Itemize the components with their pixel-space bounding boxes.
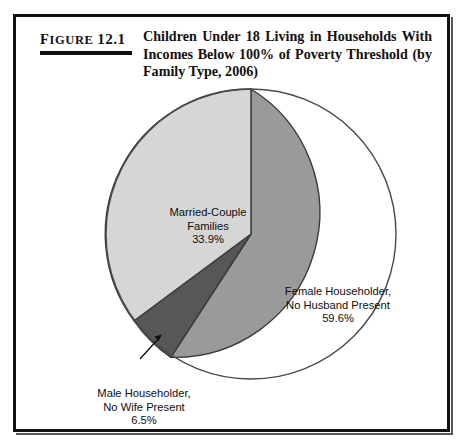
pie-label-female-value: 59.6% <box>268 312 408 326</box>
pie-label-male-value: 6.5% <box>74 414 214 428</box>
pie-label-female-line1: Female Householder, <box>268 285 408 299</box>
pie-label-married-line2: Families <box>146 220 270 234</box>
pie-label-male-line2: No Wife Present <box>74 401 214 415</box>
pie-label-married-couple: Married-Couple Families 33.9% <box>146 206 270 247</box>
pie-chart-area: Married-Couple Families 33.9% Female Hou… <box>16 17 453 435</box>
pie-label-female-householder: Female Householder, No Husband Present 5… <box>268 285 408 326</box>
pie-label-married-value: 33.9% <box>146 233 270 247</box>
pie-label-female-line2: No Husband Present <box>268 299 408 313</box>
figure-root: FIGURE 12.1 Children Under 18 Living in … <box>0 0 466 446</box>
pie-label-male-line1: Male Householder, <box>74 387 214 401</box>
pie-label-male-householder: Male Householder, No Wife Present 6.5% <box>74 387 214 428</box>
callout-arrow-line <box>140 338 160 360</box>
pie-label-married-line1: Married-Couple <box>146 206 270 220</box>
figure-frame: FIGURE 12.1 Children Under 18 Living in … <box>13 14 450 432</box>
